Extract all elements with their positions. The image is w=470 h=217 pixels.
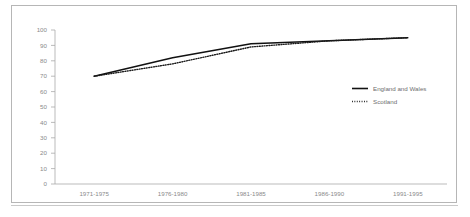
line-chart: 0102030405060708090100 1971-19751976-198… (0, 0, 470, 217)
x-axis-tick-label: 1981-1985 (236, 190, 266, 197)
series-layer (94, 38, 408, 76)
x-axis-tick-label: 1976-1980 (158, 190, 188, 197)
legend-label-scotland: Scotland (373, 98, 398, 105)
y-axis-tick-label: 40 (40, 119, 47, 126)
y-axis-ticks (51, 30, 55, 184)
y-axis-tick-label: 80 (40, 57, 47, 64)
y-axis-tick-labels: 0102030405060708090100 (37, 26, 48, 187)
x-axis-tick-label: 1986-1990 (315, 190, 345, 197)
series-line-england-and-wales (94, 38, 408, 76)
y-axis-tick-label: 70 (40, 72, 47, 79)
x-axis-tick-labels: 1971-19751976-19801981-19851986-19901991… (79, 190, 423, 197)
chart-figure: 0102030405060708090100 1971-19751976-198… (0, 0, 470, 217)
legend-item-scotland: Scotland (352, 98, 398, 105)
y-axis-tick-label: 90 (40, 42, 47, 49)
chart-legend: England and Wales Scotland (352, 85, 426, 105)
y-axis-tick-label: 30 (40, 134, 47, 141)
legend-item-england-and-wales: England and Wales (352, 85, 426, 92)
y-axis-tick-label: 50 (40, 103, 47, 110)
y-axis-tick-label: 100 (37, 26, 48, 33)
y-axis-tick-label: 20 (40, 149, 47, 156)
y-axis-tick-label: 0 (44, 180, 48, 187)
y-axis-tick-label: 10 (40, 165, 47, 172)
y-axis-tick-label: 60 (40, 88, 47, 95)
x-axis-tick-label: 1991-1995 (393, 190, 423, 197)
legend-label-england-and-wales: England and Wales (373, 85, 426, 92)
x-axis-tick-label: 1971-1975 (79, 190, 109, 197)
